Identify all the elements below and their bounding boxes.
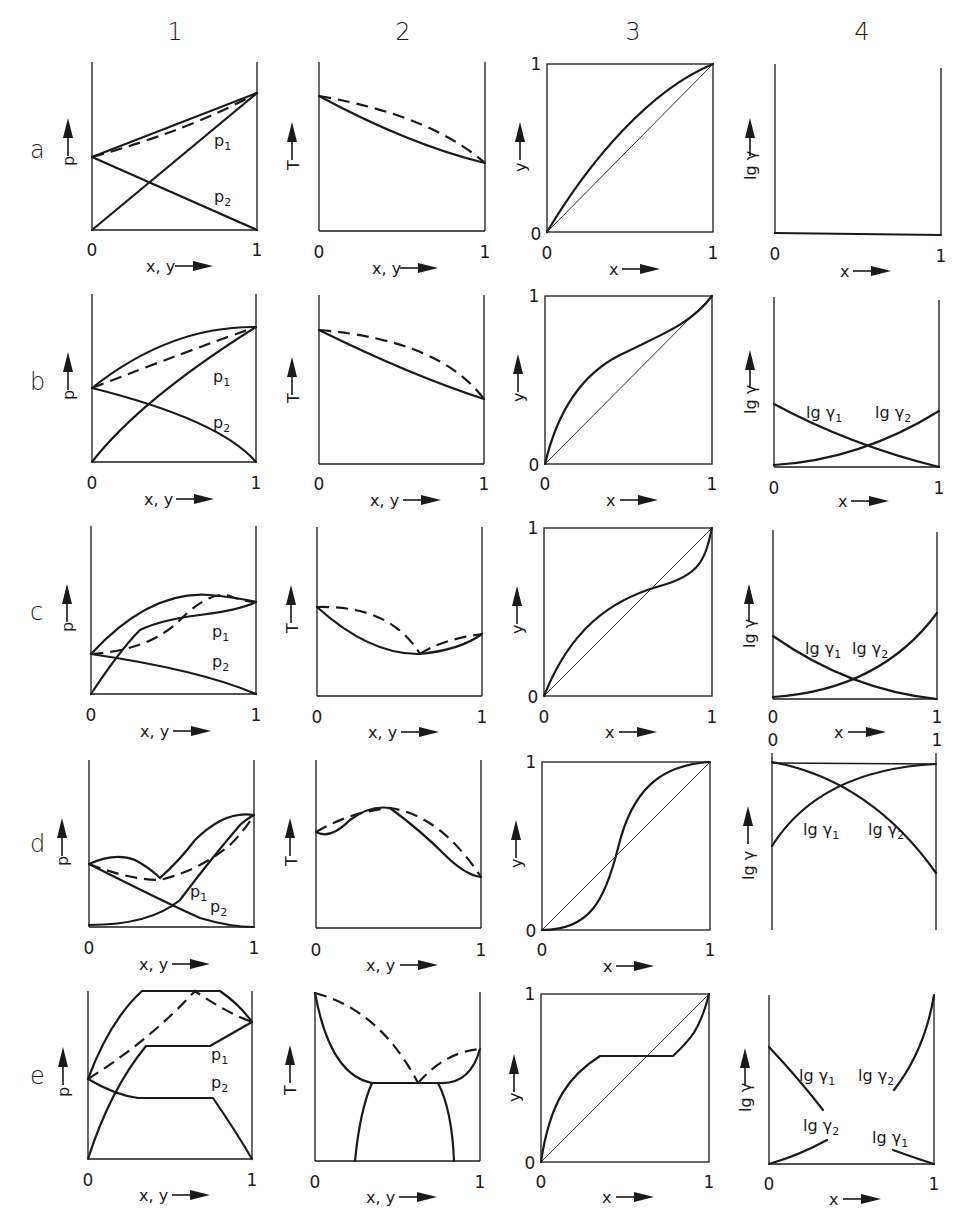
vle-diagram-figure: 1 2 3 4 a b c d e p1 p2 p 0 1 x, y xyxy=(0,0,958,1212)
x-axis-arrow-icon xyxy=(175,261,213,271)
p2-curve xyxy=(92,388,256,462)
x-axis-arrow-icon xyxy=(848,727,886,737)
y-axis-label: p xyxy=(53,856,72,866)
label-lg-gamma2: lg γ2 xyxy=(875,403,911,425)
x-axis-label: x xyxy=(838,492,847,511)
y-axis-label: y xyxy=(509,393,528,402)
tick-1: 1 xyxy=(929,1174,940,1194)
label-lg-gamma2-left: lg γ2 xyxy=(803,1116,839,1138)
x-axis-arrow-icon xyxy=(172,1190,210,1200)
tick-y1: 1 xyxy=(531,54,542,74)
x-axis-label: x xyxy=(606,491,615,510)
row-headers: a b c d e xyxy=(30,136,45,1090)
tick-1-d4: 1 xyxy=(932,730,943,750)
y-axis-arrow-icon xyxy=(287,122,297,160)
x-axis-label: x xyxy=(605,723,614,742)
diagonal-reference xyxy=(542,762,710,930)
tick-x0: 0 xyxy=(539,707,550,727)
column-header-4: 4 xyxy=(854,18,869,46)
diagonal-reference xyxy=(541,994,709,1162)
lg-gamma1-curve-right xyxy=(893,1150,934,1164)
boiling-curve xyxy=(319,96,485,163)
label-p1: p1 xyxy=(214,131,231,153)
y-axis-arrow-icon xyxy=(285,1045,295,1083)
dew-curve xyxy=(319,330,484,399)
y-axis-label: T xyxy=(282,856,301,867)
row-header-b: b xyxy=(30,368,45,396)
column-header-2: 2 xyxy=(395,18,410,46)
y-axis-arrow-icon xyxy=(744,584,754,622)
dew-curve-right xyxy=(418,1049,480,1083)
label-lg-gamma2: lg γ2 xyxy=(852,639,888,661)
tick-0: 0 xyxy=(768,707,779,727)
panel-d3-equilibrium: y 1 0 0 1 x xyxy=(507,752,715,976)
y-axis-arrow-icon xyxy=(509,1054,519,1092)
lg-gamma-zero-line xyxy=(775,233,941,235)
dew-curve-right xyxy=(420,634,482,654)
x-axis-arrow-icon xyxy=(853,266,891,276)
panel-c1-pressure: p1 p2 p 0 1 x, y xyxy=(58,526,261,741)
panel-a3-equilibrium: y 1 0 0 1 x xyxy=(511,54,718,279)
panel-d1-pressure: p1 p2 p 0 1 x, y xyxy=(53,760,259,974)
x-axis-arrow-icon xyxy=(619,727,657,737)
x-axis-label: x xyxy=(603,957,612,976)
column-header-3: 3 xyxy=(625,18,640,46)
y-axis-label: y xyxy=(511,163,530,172)
lg-gamma1-curve xyxy=(774,404,939,467)
label-lg-gamma1-right: lg γ1 xyxy=(872,1128,908,1150)
label-p2: p2 xyxy=(212,652,229,674)
row-header-e: e xyxy=(30,1062,45,1090)
x-axis-arrow-icon xyxy=(622,264,660,274)
lg-gamma2-curve-right xyxy=(894,995,934,1090)
tick-0: 0 xyxy=(314,242,325,262)
y-axis-label: T xyxy=(283,623,302,634)
x-axis-label: x, y xyxy=(140,722,169,741)
panel-b3-equilibrium: y 1 0 0 1 x xyxy=(509,286,717,510)
y-axis-arrow-icon xyxy=(740,1048,750,1086)
dew-curve xyxy=(91,595,256,654)
x-axis-arrow-icon xyxy=(399,1192,437,1202)
tick-0: 0 xyxy=(769,478,780,498)
x-axis-arrow-icon xyxy=(620,495,658,505)
x-axis-label: x, y xyxy=(368,723,397,742)
x-axis-label: x, y xyxy=(146,257,175,276)
x-axis-arrow-icon xyxy=(851,496,889,506)
tick-0-d4: 0 xyxy=(768,730,779,750)
label-lg-gamma1: lg γ1 xyxy=(805,639,841,661)
panel-e4-activity: lg γ1 lg γ2 lg γ2 lg γ1 lg γ 0 1 x xyxy=(736,995,939,1209)
x-axis-arrow-icon xyxy=(843,1194,881,1204)
tick-y1: 1 xyxy=(529,286,540,306)
y-axis-arrow-icon xyxy=(63,352,73,390)
x-axis-label: x, y xyxy=(366,1188,395,1207)
x-axis-arrow-icon xyxy=(403,495,441,505)
solubility-curve-left xyxy=(355,1083,372,1161)
diagonal-reference xyxy=(544,528,712,696)
label-p2: p2 xyxy=(211,1073,228,1095)
label-p2: p2 xyxy=(213,413,230,435)
column-headers: 1 2 3 4 xyxy=(167,18,869,46)
tick-x1: 1 xyxy=(708,243,719,263)
x-axis-label: x xyxy=(609,260,618,279)
tick-x1: 1 xyxy=(704,1172,715,1192)
y-axis-label: lg γ xyxy=(741,151,760,180)
y-axis-label: lg γ xyxy=(739,851,758,880)
label-p2: p2 xyxy=(214,187,231,209)
lg-gamma2-curve xyxy=(774,411,939,465)
tick-y1: 1 xyxy=(526,752,537,772)
panel-a4-activity: lg γ 0 1 x xyxy=(741,64,946,281)
y-axis-arrow-icon xyxy=(285,818,295,856)
x-axis-arrow-icon xyxy=(400,263,438,273)
x-axis-label: x, y xyxy=(366,956,395,975)
label-lg-gamma2-right: lg γ2 xyxy=(858,1066,894,1088)
solubility-curve-right xyxy=(438,1083,454,1161)
lg-gamma2-curve-left xyxy=(769,1140,827,1164)
panel-b4-activity: lg γ1 lg γ2 lg γ 0 1 x xyxy=(741,297,944,511)
tick-x0: 0 xyxy=(536,1172,547,1192)
tick-x0: 0 xyxy=(540,474,551,494)
panel-d2-temperature: T 0 1 x, y xyxy=(282,760,486,975)
panel-a1-pressure: p1 p2 p 0 1 x, y xyxy=(59,62,262,276)
row-header-a: a xyxy=(30,136,45,164)
label-lg-gamma1: lg γ1 xyxy=(806,403,842,425)
y-axis-label: T xyxy=(281,1085,300,1096)
label-p1: p1 xyxy=(212,622,229,644)
